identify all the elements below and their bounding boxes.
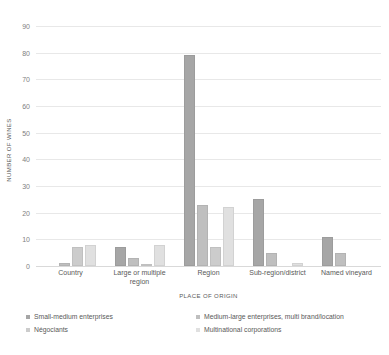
bar-group xyxy=(312,26,381,266)
x-tick-label: Named vineyard xyxy=(312,269,381,286)
bar[interactable] xyxy=(128,258,139,266)
y-tick-label-80: 80 xyxy=(22,49,30,56)
bar[interactable] xyxy=(59,263,70,266)
bar[interactable] xyxy=(115,247,126,266)
bar[interactable] xyxy=(72,247,83,266)
bar[interactable] xyxy=(292,263,303,266)
bar[interactable] xyxy=(223,207,234,266)
bar-group xyxy=(105,26,174,266)
bar[interactable] xyxy=(85,245,96,266)
x-axis-tick-labels: CountryLarge or multiple regionRegionSub… xyxy=(36,269,381,286)
y-tick-label-50: 50 xyxy=(22,129,30,136)
legend-swatch-icon xyxy=(196,328,200,332)
legend-item[interactable]: Négociants xyxy=(26,326,196,333)
bar-group xyxy=(36,26,105,266)
gridline-0 xyxy=(36,266,381,267)
bar[interactable] xyxy=(322,237,333,266)
legend-item-label: Multinational corporations xyxy=(204,326,281,333)
legend-item[interactable]: Small-medium enterprises xyxy=(26,313,196,320)
bar-group xyxy=(174,26,243,266)
bar[interactable] xyxy=(141,264,152,266)
x-tick-label: Country xyxy=(36,269,105,286)
y-tick-label-0: 0 xyxy=(26,263,30,270)
legend-item-label: Négociants xyxy=(34,326,68,333)
y-tick-label-10: 10 xyxy=(22,236,30,243)
legend-swatch-icon xyxy=(196,315,200,319)
bar[interactable] xyxy=(335,253,346,266)
x-tick-label: Region xyxy=(174,269,243,286)
y-axis-ticks: 9080706050403020100 xyxy=(0,26,34,266)
chart-legend: Small-medium enterprisesMedium-large ent… xyxy=(26,310,376,336)
bar-chart-figure: NUMBER OF WINES 9080706050403020100 Coun… xyxy=(0,0,389,355)
legend-item-label: Medium-large enterprises, multi brand/lo… xyxy=(204,313,344,320)
bar[interactable] xyxy=(197,205,208,266)
y-tick-label-70: 70 xyxy=(22,76,30,83)
legend-swatch-icon xyxy=(26,315,30,319)
x-axis-title: PLACE OF ORIGIN xyxy=(36,293,381,299)
bar[interactable] xyxy=(266,253,277,266)
x-tick-label: Large or multiple region xyxy=(105,269,174,286)
y-tick-label-30: 30 xyxy=(22,183,30,190)
legend-item[interactable]: Medium-large enterprises, multi brand/lo… xyxy=(196,313,376,320)
y-tick-label-90: 90 xyxy=(22,23,30,30)
legend-item[interactable]: Multinational corporations xyxy=(196,326,376,333)
bar-group xyxy=(243,26,312,266)
legend-swatch-icon xyxy=(26,328,30,332)
legend-item-label: Small-medium enterprises xyxy=(34,313,113,320)
bar[interactable] xyxy=(184,55,195,266)
y-tick-label-60: 60 xyxy=(22,103,30,110)
bar[interactable] xyxy=(253,199,264,266)
bar[interactable] xyxy=(154,245,165,266)
y-tick-label-20: 20 xyxy=(22,209,30,216)
x-tick-label: Sub-region/district xyxy=(243,269,312,286)
bar-groups xyxy=(36,26,381,266)
y-tick-label-40: 40 xyxy=(22,156,30,163)
bar[interactable] xyxy=(210,247,221,266)
